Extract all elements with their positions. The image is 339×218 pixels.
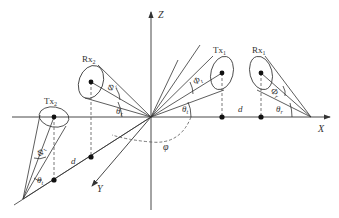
rx2-theta-label: θr [116,106,123,117]
tx1-theta-label: θt [182,104,188,115]
tx2-projection-dot [51,177,56,182]
rx2-center-dot [89,80,94,85]
rx1-theta-label: θr [276,104,283,115]
rx1-phi-label: Φr [268,85,282,100]
rx2-projection-dot [88,154,93,159]
tx1-label: Tx1 [213,45,226,56]
z-axis-label: Z [158,9,164,20]
tx2-center-dot [52,115,57,120]
tx1-center-dot [220,71,225,76]
phi-arc [112,117,191,142]
tx1-projection-dot [219,114,224,119]
coordinate-diagram: Z X Y Rx2 Tx1 Rx1 Tx2 Φr θr Φt θt Φr θr … [0,0,339,218]
y-axis [92,117,151,186]
position-dots [51,71,263,183]
rx2-label: Rx2 [82,54,96,65]
tx2-label: Tx2 [44,96,57,107]
phi-azimuth-label: φ [163,141,169,152]
tx1-cone [151,54,237,117]
y-axis-label: Y [97,183,104,194]
rx1-projection-dot [258,114,263,119]
tx2-theta-label: θt [37,175,43,186]
x-axis-label: X [317,123,325,134]
distance-y-label: d [71,156,76,166]
tx2-phi-label: Φt [34,146,47,158]
distance-x-label: d [238,104,243,114]
rx1-label: Rx1 [252,45,266,56]
rx1-center-dot [259,71,264,76]
rx2-phi-label: Φr [105,80,120,95]
